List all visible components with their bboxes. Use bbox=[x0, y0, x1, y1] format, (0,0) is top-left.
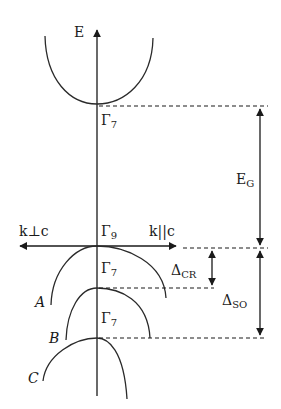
k-perp-label: k⊥c bbox=[19, 224, 49, 238]
gamma7-conduction-label: Γ7 bbox=[101, 113, 117, 130]
band-c-label: C bbox=[28, 371, 39, 385]
energy-axis-label: E bbox=[74, 25, 84, 39]
spin-orbit-label: ΔSO bbox=[222, 293, 247, 310]
k-parallel-label: k||c bbox=[149, 224, 175, 238]
valence-band-c-curve bbox=[43, 338, 127, 399]
band-gap-label: EG bbox=[236, 172, 254, 189]
gamma7-c-label: Γ7 bbox=[101, 311, 117, 328]
band-b-label: B bbox=[49, 331, 59, 345]
band-structure-diagram: E Γ7 EG k⊥c Γ9 k||c Γ7 ΔCR ΔSO A Γ7 B C bbox=[0, 0, 281, 409]
gamma7-b-label: Γ7 bbox=[101, 261, 117, 278]
crystal-field-label: ΔCR bbox=[171, 263, 196, 280]
band-a-label: A bbox=[35, 295, 45, 309]
diagram-canvas bbox=[0, 0, 281, 409]
conduction-band-curve bbox=[45, 36, 153, 104]
gamma9-label: Γ9 bbox=[101, 224, 117, 241]
